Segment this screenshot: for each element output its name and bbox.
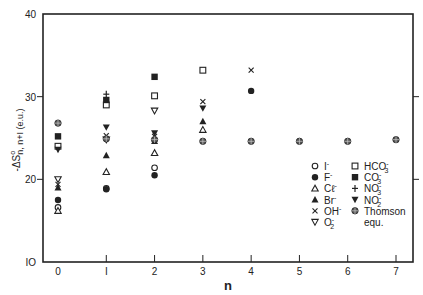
plot-frame bbox=[43, 14, 413, 262]
data-point bbox=[296, 138, 302, 144]
y-axis-title: -ΔSon, n+I (e.u.) bbox=[9, 109, 25, 172]
legend-label: Cℓ- bbox=[324, 182, 337, 194]
y-tick-label: 20 bbox=[25, 174, 37, 185]
x-tick-label: 6 bbox=[345, 266, 351, 277]
series-filled-triangle-up bbox=[55, 118, 207, 191]
data-point bbox=[200, 99, 205, 104]
legend-marker bbox=[312, 163, 318, 169]
ticks: 0I234567IO203040 bbox=[25, 9, 419, 277]
legend-marker bbox=[312, 219, 318, 225]
legend-entry: Cℓ- bbox=[312, 182, 338, 194]
series-crossed-circle bbox=[55, 120, 399, 145]
y-tick-label: 30 bbox=[25, 92, 37, 103]
data-point bbox=[103, 169, 109, 175]
data-point bbox=[151, 150, 157, 156]
series-filled-circle bbox=[55, 88, 255, 204]
data-point bbox=[103, 136, 109, 142]
data-points bbox=[55, 67, 400, 213]
data-point bbox=[151, 130, 158, 136]
x-tick-label: 4 bbox=[248, 266, 254, 277]
legend-label: F- bbox=[324, 171, 333, 183]
data-point bbox=[200, 127, 206, 133]
data-point bbox=[103, 97, 109, 103]
data-point bbox=[55, 147, 62, 153]
series-filled-triangle-down bbox=[55, 105, 207, 153]
legend-marker bbox=[352, 197, 359, 203]
y-tick-label: 40 bbox=[25, 9, 37, 20]
x-tick-label: 5 bbox=[297, 266, 303, 277]
legend-marker bbox=[352, 208, 358, 214]
legend-label: O-2 bbox=[324, 216, 335, 230]
data-point bbox=[199, 118, 206, 124]
series-open-square bbox=[55, 67, 206, 149]
data-point bbox=[151, 172, 157, 178]
x-tick-label: 0 bbox=[55, 266, 61, 277]
data-point bbox=[249, 68, 254, 73]
legend-label: Thomson bbox=[364, 206, 406, 217]
legend-entry: Thomsonequ. bbox=[352, 206, 406, 228]
series-open-triangle-up bbox=[55, 127, 206, 214]
legend-entry: O-2 bbox=[312, 216, 335, 230]
data-point bbox=[345, 138, 351, 144]
legend-marker bbox=[313, 208, 318, 213]
legend: I-HCO-3F-CO-3Cℓ-NO-3Br-NO-2OH-Thomsonequ… bbox=[312, 160, 406, 230]
legend-entry: Br- bbox=[312, 194, 338, 206]
legend-label-line2: equ. bbox=[364, 217, 383, 228]
legend-marker bbox=[352, 174, 358, 180]
data-point bbox=[200, 67, 206, 73]
legend-entry: I- bbox=[312, 160, 330, 172]
data-point bbox=[55, 133, 61, 139]
legend-entry: F- bbox=[312, 171, 333, 183]
data-point bbox=[200, 138, 206, 144]
x-tick-label: 3 bbox=[200, 266, 206, 277]
legend-marker bbox=[352, 163, 358, 169]
x-tick-label: 2 bbox=[152, 266, 158, 277]
y-tick-label: IO bbox=[25, 257, 36, 268]
data-point bbox=[55, 120, 61, 126]
legend-label: OH- bbox=[324, 205, 342, 217]
data-point bbox=[103, 186, 109, 192]
axes bbox=[43, 14, 413, 262]
data-point bbox=[151, 74, 157, 80]
data-point bbox=[103, 152, 110, 158]
series-plus bbox=[103, 91, 109, 98]
data-point bbox=[248, 138, 254, 144]
data-point bbox=[151, 136, 157, 142]
x-tick-label: I bbox=[105, 266, 108, 277]
data-point bbox=[55, 197, 61, 203]
data-point bbox=[152, 93, 158, 99]
legend-marker bbox=[312, 196, 319, 202]
data-point bbox=[152, 165, 158, 171]
legend-entry: OH- bbox=[313, 205, 343, 217]
data-point bbox=[199, 105, 206, 111]
data-point bbox=[103, 124, 110, 130]
scatter-chart: 0I234567IO203040 n -ΔSon, n+I (e.u.) I-H… bbox=[0, 0, 423, 295]
legend-marker bbox=[312, 185, 318, 191]
legend-label: I- bbox=[324, 160, 330, 172]
data-point bbox=[103, 91, 109, 98]
legend-marker bbox=[312, 174, 318, 180]
y-label-main: -ΔS bbox=[11, 154, 22, 171]
x-tick-label: 7 bbox=[393, 266, 399, 277]
x-axis-title: n bbox=[224, 278, 232, 293]
legend-marker bbox=[352, 185, 358, 192]
legend-label: Br- bbox=[324, 194, 337, 206]
data-point bbox=[248, 88, 254, 94]
data-point bbox=[151, 108, 157, 114]
y-label-sub: n, n+I (e.u.) bbox=[15, 109, 25, 155]
data-point bbox=[393, 136, 399, 142]
y-axis-label-text: -ΔSon, n+I (e.u.) bbox=[9, 109, 25, 172]
